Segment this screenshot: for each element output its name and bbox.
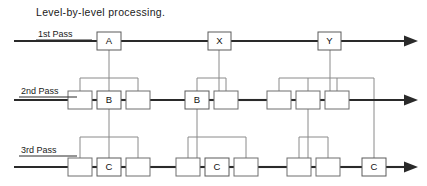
- node-p2-b1[interactable]: B: [97, 91, 121, 109]
- node-box[interactable]: [214, 91, 238, 109]
- level-by-level-processing-diagram: Level-by-level processing. AXYBBCCC 1st …: [0, 0, 427, 186]
- node-box[interactable]: [267, 91, 291, 109]
- node-label: C: [106, 161, 113, 172]
- node-p1-a[interactable]: A: [97, 32, 121, 50]
- node-p3-7[interactable]: [287, 158, 311, 176]
- node-label: C: [371, 161, 378, 172]
- pass-label-pass-2: 2nd Pass: [21, 86, 59, 96]
- node-p2-7[interactable]: [296, 91, 320, 109]
- node-label: B: [194, 94, 200, 105]
- node-p2-1[interactable]: [68, 91, 92, 109]
- pass-label-pass-3: 3rd Pass: [21, 145, 57, 155]
- node-p2-3[interactable]: [126, 91, 150, 109]
- node-box[interactable]: [176, 158, 200, 176]
- node-p2-6[interactable]: [267, 91, 291, 109]
- node-box[interactable]: [126, 91, 150, 109]
- node-label: B: [106, 94, 112, 105]
- node-p3-c3[interactable]: C: [362, 158, 386, 176]
- node-box[interactable]: [287, 158, 311, 176]
- node-box[interactable]: [325, 91, 349, 109]
- node-p3-c1[interactable]: C: [97, 158, 121, 176]
- node-p3-c2[interactable]: C: [205, 158, 229, 176]
- node-label: Y: [326, 35, 333, 46]
- node-p3-4[interactable]: [176, 158, 200, 176]
- node-box[interactable]: [234, 158, 258, 176]
- node-label: A: [106, 35, 113, 46]
- node-p2-5[interactable]: [214, 91, 238, 109]
- diagram-canvas: Level-by-level processing. AXYBBCCC 1st …: [0, 0, 427, 186]
- pass-label-pass-1: 1st Pass: [38, 29, 73, 39]
- node-p2-b2[interactable]: B: [185, 91, 209, 109]
- node-p3-3[interactable]: [126, 158, 150, 176]
- node-box[interactable]: [126, 158, 150, 176]
- node-label: C: [214, 161, 221, 172]
- node-box[interactable]: [296, 91, 320, 109]
- node-box[interactable]: [316, 158, 340, 176]
- node-box[interactable]: [68, 91, 92, 109]
- node-box[interactable]: [68, 158, 92, 176]
- node-p3-6[interactable]: [234, 158, 258, 176]
- node-p3-8[interactable]: [316, 158, 340, 176]
- node-p2-8[interactable]: [325, 91, 349, 109]
- diagram-title: Level-by-level processing.: [36, 6, 165, 18]
- node-p1-x[interactable]: X: [208, 32, 231, 50]
- node-label: X: [216, 35, 223, 46]
- node-p3-1[interactable]: [68, 158, 92, 176]
- node-p1-y[interactable]: Y: [318, 32, 341, 50]
